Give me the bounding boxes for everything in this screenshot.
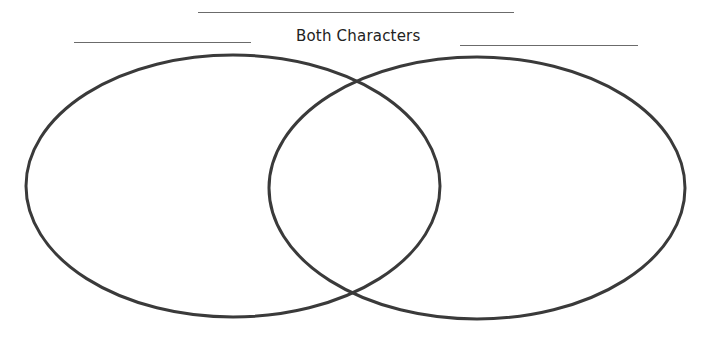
right-character-ellipse	[269, 57, 685, 319]
venn-diagram	[0, 0, 712, 338]
left-character-ellipse	[26, 55, 440, 317]
